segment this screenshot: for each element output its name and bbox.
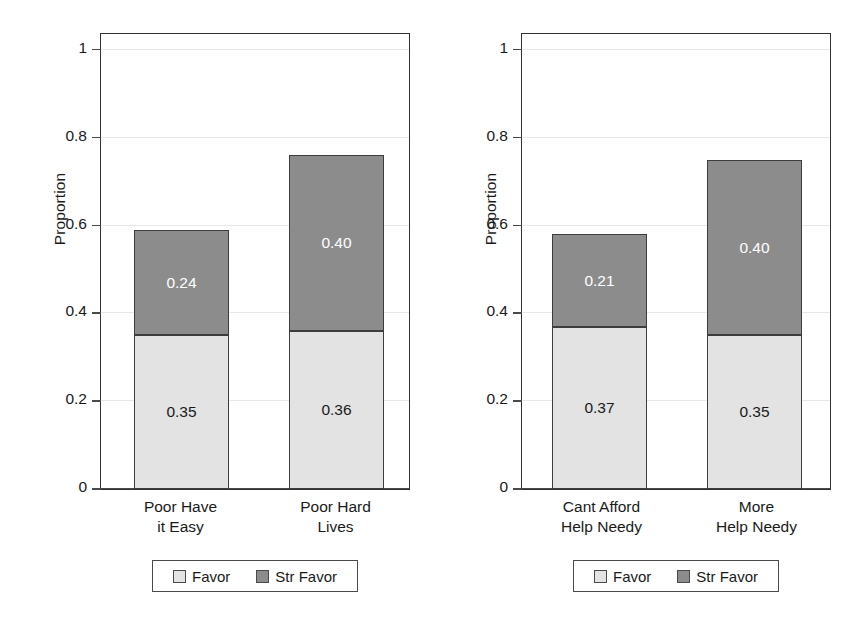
y-tick-label: 1 (78, 39, 87, 57)
y-tick-label: 0.8 (486, 127, 508, 145)
plot-frame-left: 0 0.2 0.4 0.6 0.8 1 (100, 33, 410, 490)
legend: Favor Str Favor (152, 560, 358, 592)
x-axis-category-label: More Help Needy (677, 497, 837, 538)
gridline (101, 49, 409, 50)
x-axis-category-label: Poor Have it Easy (101, 497, 261, 538)
bar-value-label: 0.37 (584, 400, 614, 416)
bar-value-label: 0.24 (166, 275, 196, 291)
category-line-1: More (677, 497, 837, 517)
legend-swatch-str-favor-icon (256, 570, 269, 583)
stacked-bar[interactable]: 0.35 0.40 (707, 160, 802, 489)
legend-swatch-favor-icon (594, 570, 607, 583)
bar-value-label: 0.35 (739, 404, 769, 420)
legend: Favor Str Favor (573, 560, 779, 592)
gridline (522, 137, 830, 138)
bar-segment-str-favor[interactable]: 0.21 (552, 234, 647, 326)
legend-label: Favor (613, 568, 651, 585)
y-tick-label: 0.2 (486, 390, 508, 408)
tick-mark (92, 488, 101, 490)
tick-mark (92, 49, 101, 51)
y-axis-label: Proportion (482, 139, 500, 279)
bar-value-label: 0.21 (584, 273, 614, 289)
y-tick-label: 0 (499, 478, 508, 496)
y-tick-label: 0.2 (65, 390, 87, 408)
tick-mark (513, 400, 522, 402)
bar-value-label: 0.36 (321, 402, 351, 418)
tick-mark (513, 312, 522, 314)
category-line-2: Help Needy (522, 517, 682, 537)
bar-segment-str-favor[interactable]: 0.40 (289, 155, 384, 331)
bar-value-label: 0.40 (739, 240, 769, 256)
category-line-1: Poor Hard (256, 497, 416, 517)
bar-value-label: 0.35 (166, 404, 196, 420)
legend-entry-str-favor[interactable]: Str Favor (256, 568, 337, 585)
y-tick-label: 0.6 (65, 215, 87, 233)
chart-panel-right: Proportion 0 0.2 0.4 0.6 (431, 0, 861, 626)
legend-entry-str-favor[interactable]: Str Favor (677, 568, 758, 585)
x-axis-category-label: Cant Afford Help Needy (522, 497, 682, 538)
legend-swatch-favor-icon (173, 570, 186, 583)
y-tick-label: 0.4 (65, 302, 87, 320)
bar-value-label: 0.40 (321, 235, 351, 251)
stacked-bar-chart-figure: Proportion 0 0.2 0.4 0.6 (0, 0, 861, 626)
tick-mark (92, 137, 101, 139)
bar-segment-favor[interactable]: 0.35 (134, 335, 229, 489)
y-tick-label: 0.8 (65, 127, 87, 145)
bar-segment-str-favor[interactable]: 0.24 (134, 230, 229, 335)
chart-panel-left: Proportion 0 0.2 0.4 0.6 (0, 0, 430, 626)
legend-label: Favor (192, 568, 230, 585)
tick-mark (513, 225, 522, 227)
category-line-1: Cant Afford (522, 497, 682, 517)
tick-mark (92, 225, 101, 227)
legend-label: Str Favor (696, 568, 758, 585)
tick-mark (92, 400, 101, 402)
tick-mark (513, 137, 522, 139)
category-line-2: Lives (256, 517, 416, 537)
bar-segment-str-favor[interactable]: 0.40 (707, 160, 802, 336)
gridline (101, 137, 409, 138)
category-line-1: Poor Have (101, 497, 261, 517)
y-tick-label: 0.6 (486, 215, 508, 233)
stacked-bar[interactable]: 0.37 0.21 (552, 234, 647, 489)
y-axis-label: Proportion (51, 139, 69, 279)
bar-segment-favor[interactable]: 0.36 (289, 331, 384, 489)
gridline (522, 49, 830, 50)
bar-segment-favor[interactable]: 0.37 (552, 327, 647, 490)
category-line-2: Help Needy (677, 517, 837, 537)
stacked-bar[interactable]: 0.35 0.24 (134, 230, 229, 489)
tick-mark (513, 488, 522, 490)
bar-segment-favor[interactable]: 0.35 (707, 335, 802, 489)
legend-entry-favor[interactable]: Favor (173, 568, 230, 585)
legend-swatch-str-favor-icon (677, 570, 690, 583)
legend-label: Str Favor (275, 568, 337, 585)
category-line-2: it Easy (101, 517, 261, 537)
y-tick-label: 0 (78, 478, 87, 496)
plot-frame-right: 0 0.2 0.4 0.6 0.8 1 (521, 33, 831, 490)
y-tick-label: 1 (499, 39, 508, 57)
legend-entry-favor[interactable]: Favor (594, 568, 651, 585)
y-tick-label: 0.4 (486, 302, 508, 320)
tick-mark (513, 49, 522, 51)
tick-mark (92, 312, 101, 314)
x-axis-category-label: Poor Hard Lives (256, 497, 416, 538)
stacked-bar[interactable]: 0.36 0.40 (289, 155, 384, 489)
